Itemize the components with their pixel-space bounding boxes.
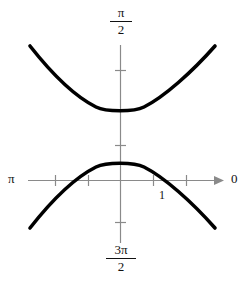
- x-axis-arrowhead: [214, 176, 224, 185]
- y-axis-top-label-denominator: 2: [110, 22, 132, 37]
- y-axis-bottom-label-numerator: 3π: [106, 243, 136, 258]
- y-axis-top-label-numerator: π: [110, 6, 132, 21]
- x-tick-label-one: 1: [159, 189, 165, 201]
- y-axis-bottom-label-denominator: 2: [106, 259, 136, 274]
- x-axis-left-label: π: [8, 172, 15, 185]
- y-axis-bottom-label: 3π 2: [106, 243, 136, 273]
- y-axis-top-label: π 2: [110, 6, 132, 36]
- curve-upper-branch: [30, 46, 215, 111]
- math-plot-figure: π 0 π 2 3π 2 1: [0, 0, 249, 284]
- curve-lower-branch: [30, 163, 215, 228]
- x-axis-right-label: 0: [231, 172, 238, 185]
